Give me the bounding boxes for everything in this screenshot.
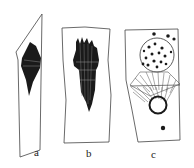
granule-c [161,126,165,130]
spindle-upper-c [130,72,180,96]
panel-c-drawing [125,29,180,142]
panel-b-drawing [62,27,111,143]
figure-canvas [0,0,194,168]
fiber-bundle-b [73,37,99,112]
chromatin-dots-c [142,32,176,68]
panel-label-b: b [86,148,92,159]
equator-line-c [130,85,180,86]
spindle-fibers-upper-c [135,72,176,93]
centrosome-ring-c [150,97,167,114]
panel-a-drawing [16,14,42,157]
panel-label-c: c [151,149,156,160]
spindle-body-a [21,42,41,96]
panel-label-a: a [34,147,39,158]
